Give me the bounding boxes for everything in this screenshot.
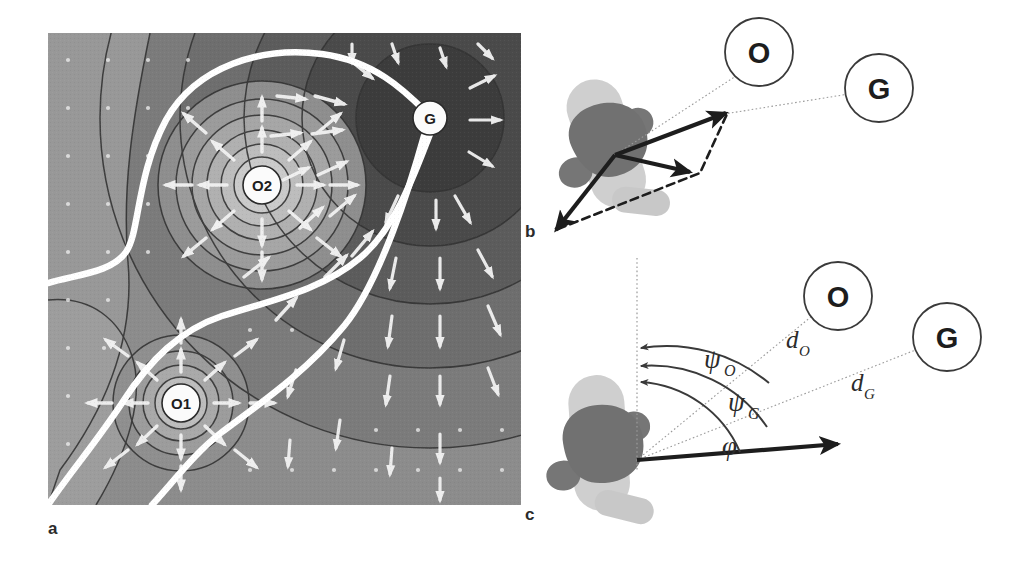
distance-label-goal: d G: [851, 369, 875, 402]
distance-obstacle-subscript: O: [799, 343, 810, 359]
psi-goal-subscript: G: [748, 405, 760, 422]
leader-line-goal-b: [724, 94, 849, 114]
panel-b-node-goal[interactable]: G: [845, 54, 913, 122]
node-obstacle-1[interactable]: O1: [162, 384, 200, 422]
panel-label-a: a: [48, 519, 57, 539]
panel-c-node-obstacle-label: O: [827, 281, 850, 313]
robot-b: [534, 65, 684, 246]
robot-b-arm: [611, 185, 671, 217]
psi-obstacle-symbol: ψ: [704, 344, 722, 374]
panel-label-b: b: [525, 222, 535, 242]
panel-b-node-obstacle[interactable]: O: [725, 18, 793, 86]
panel-a: [48, 0, 760, 505]
angle-label-phi: φ: [722, 431, 737, 461]
panel-label-c: c: [525, 505, 534, 525]
panel-b-node-goal-label: G: [868, 73, 891, 105]
panel-c-node-obstacle[interactable]: O: [804, 262, 872, 330]
panel-c: ψ O ψ G φ d O d G O: [540, 258, 981, 534]
angle-label-psi-goal: ψ G: [728, 387, 760, 422]
panel-b: O G: [534, 18, 913, 246]
panel-b-node-obstacle-label: O: [748, 37, 771, 69]
robot-c: [540, 371, 659, 533]
node-obstacle-2[interactable]: O2: [243, 166, 281, 204]
distance-goal-symbol: d: [851, 369, 864, 396]
distance-obstacle-symbol: d: [786, 326, 799, 353]
node-obstacle-2-label: O2: [252, 177, 272, 194]
figure-canvas: O1 O2 G: [0, 0, 1021, 574]
field-grain: [48, 33, 521, 505]
panel-c-node-goal-label: G: [936, 322, 959, 354]
psi-goal-symbol: ψ: [728, 387, 746, 417]
distance-goal-subscript: G: [864, 386, 875, 402]
psi-obstacle-subscript: O: [724, 362, 736, 379]
ray-to-goal: [637, 349, 918, 460]
node-goal-label: G: [424, 110, 436, 127]
node-goal[interactable]: G: [413, 101, 447, 135]
phi-symbol: φ: [722, 431, 737, 461]
node-obstacle-1-label: O1: [171, 395, 191, 412]
figure-root: O1 O2 G: [0, 0, 1021, 574]
panel-c-node-goal[interactable]: G: [913, 303, 981, 371]
angle-label-psi-obstacle: ψ O: [704, 344, 736, 379]
distance-label-obstacle: d O: [786, 326, 810, 359]
